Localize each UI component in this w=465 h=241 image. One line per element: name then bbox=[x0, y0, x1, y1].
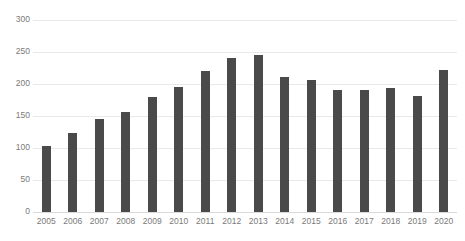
bar bbox=[42, 146, 51, 212]
x-axis-tick-label: 2019 bbox=[402, 216, 432, 226]
plot-area bbox=[33, 20, 457, 212]
x-axis-tick-label: 2010 bbox=[164, 216, 194, 226]
bar bbox=[280, 77, 289, 212]
x-axis-tick-label: 2013 bbox=[243, 216, 273, 226]
bar bbox=[201, 71, 210, 212]
x-axis-tick-label: 2009 bbox=[137, 216, 167, 226]
x-axis-tick-label: 2016 bbox=[323, 216, 353, 226]
x-axis-tick-label: 2017 bbox=[349, 216, 379, 226]
x-axis-tick-label: 2011 bbox=[190, 216, 220, 226]
x-axis-tick-label: 2006 bbox=[58, 216, 88, 226]
x-axis-tick-label: 2008 bbox=[111, 216, 141, 226]
bar bbox=[254, 55, 263, 212]
bar bbox=[307, 80, 316, 212]
x-axis-tick-label: 2012 bbox=[217, 216, 247, 226]
x-axis-tick-label: 2005 bbox=[31, 216, 61, 226]
bar-chart: 050100150200250300 200520062007200820092… bbox=[0, 0, 465, 241]
x-axis-tick-label: 2020 bbox=[429, 216, 459, 226]
x-axis-tick-label: 2014 bbox=[270, 216, 300, 226]
bar bbox=[174, 87, 183, 212]
x-axis-tick-label: 2018 bbox=[376, 216, 406, 226]
x-axis: 2005200620072008200920102011201220132014… bbox=[33, 216, 457, 230]
x-axis-tick-label: 2007 bbox=[84, 216, 114, 226]
bar bbox=[95, 119, 104, 212]
gridline bbox=[33, 212, 457, 213]
y-axis-tick-label: 50 bbox=[2, 175, 30, 184]
y-axis-tick-label: 250 bbox=[2, 47, 30, 56]
bars-layer bbox=[33, 20, 457, 212]
y-axis-tick-label: 0 bbox=[2, 207, 30, 216]
bar bbox=[413, 96, 422, 212]
y-axis-tick-label: 100 bbox=[2, 143, 30, 152]
bar bbox=[227, 58, 236, 212]
bar bbox=[148, 97, 157, 212]
x-axis-tick-label: 2015 bbox=[296, 216, 326, 226]
y-axis-tick-label: 200 bbox=[2, 79, 30, 88]
bar bbox=[386, 88, 395, 212]
bar bbox=[333, 90, 342, 212]
bar bbox=[68, 133, 77, 212]
bar bbox=[360, 90, 369, 212]
bar bbox=[121, 112, 130, 212]
y-axis: 050100150200250300 bbox=[0, 20, 30, 212]
y-axis-tick-label: 300 bbox=[2, 15, 30, 24]
y-axis-tick-label: 150 bbox=[2, 111, 30, 120]
bar bbox=[439, 70, 448, 212]
